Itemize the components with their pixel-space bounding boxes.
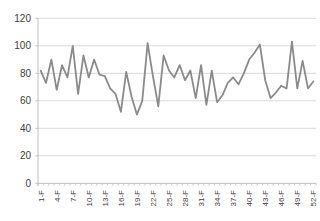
x-axis-label-43-F: 43-F xyxy=(261,190,270,207)
x-axis-label-49-F: 49-F xyxy=(293,190,302,207)
x-axis-label-31-F: 31-F xyxy=(197,190,206,207)
x-axis-label-25-F: 25-F xyxy=(165,190,174,207)
x-axis-label-40-F: 40-F xyxy=(245,190,254,207)
x-axis-label-52-F: 52-F xyxy=(309,190,318,207)
x-axis-label-34-F: 34-F xyxy=(213,190,222,207)
x-axis-label-37-F: 37-F xyxy=(229,190,238,207)
x-axis-label-46-F: 46-F xyxy=(277,190,286,207)
x-axis-label-7-F: 7-F xyxy=(69,190,78,202)
y-axis-label-0: 0 xyxy=(25,178,31,189)
x-axis-label-10-F: 10-F xyxy=(85,190,94,207)
y-axis-label-60: 60 xyxy=(20,95,32,106)
x-axis-label-1-F: 1-F xyxy=(37,190,46,202)
data-series-line xyxy=(41,42,314,115)
line-chart: 0204060801001201-F4-F7-F10-F13-F16-F19-F… xyxy=(0,0,320,221)
x-axis-label-22-F: 22-F xyxy=(149,190,158,207)
x-axis-label-16-F: 16-F xyxy=(117,190,126,207)
y-axis-label-100: 100 xyxy=(14,40,31,51)
x-axis-label-4-F: 4-F xyxy=(53,190,62,202)
x-axis-label-28-F: 28-F xyxy=(181,190,190,207)
x-axis-label-13-F: 13-F xyxy=(101,190,110,207)
line-chart-figure: 0204060801001201-F4-F7-F10-F13-F16-F19-F… xyxy=(0,0,320,221)
x-axis-label-19-F: 19-F xyxy=(133,190,142,207)
y-axis-label-120: 120 xyxy=(14,13,31,24)
y-axis-label-40: 40 xyxy=(20,123,32,134)
y-axis-label-20: 20 xyxy=(20,150,32,161)
y-axis-label-80: 80 xyxy=(20,68,32,79)
